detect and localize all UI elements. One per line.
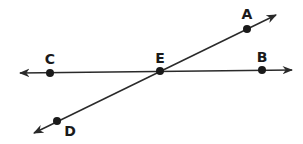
label-c: C [45, 51, 55, 67]
label-d: D [64, 123, 76, 139]
label-e: E [155, 50, 165, 66]
point-a [243, 25, 251, 33]
point-c [46, 69, 54, 77]
diagram-svg: A B C D E [0, 0, 303, 144]
point-d [53, 117, 61, 125]
point-e [156, 67, 164, 75]
label-a: A [242, 6, 253, 22]
point-b [258, 66, 266, 74]
geometry-diagram: A B C D E [0, 0, 303, 144]
line-cb [20, 70, 292, 73]
label-b: B [257, 49, 268, 65]
line-da [34, 15, 276, 133]
